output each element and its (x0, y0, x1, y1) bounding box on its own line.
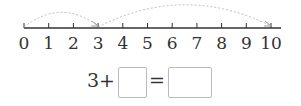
tick-label: 1 (43, 33, 54, 53)
tick-label: 2 (68, 33, 79, 53)
plus-sign: + (99, 69, 115, 91)
tick-label: 9 (241, 33, 252, 53)
tick-label: 6 (167, 33, 178, 53)
first-addend: 3 (87, 69, 99, 91)
tick-label: 4 (117, 33, 128, 53)
answer-box-addend[interactable] (118, 67, 147, 98)
tick-label: 0 (19, 33, 30, 53)
tick-label: 5 (142, 33, 153, 53)
tick-label: 10 (260, 33, 282, 53)
jump-arc (24, 12, 98, 27)
number-line: 012345678910 (0, 0, 301, 60)
answer-box-sum[interactable] (168, 67, 212, 98)
jump-arc (98, 5, 271, 27)
tick-label: 7 (191, 33, 202, 53)
tick-label: 3 (93, 33, 104, 53)
equals-sign: = (149, 69, 165, 91)
tick-label: 8 (216, 33, 227, 53)
